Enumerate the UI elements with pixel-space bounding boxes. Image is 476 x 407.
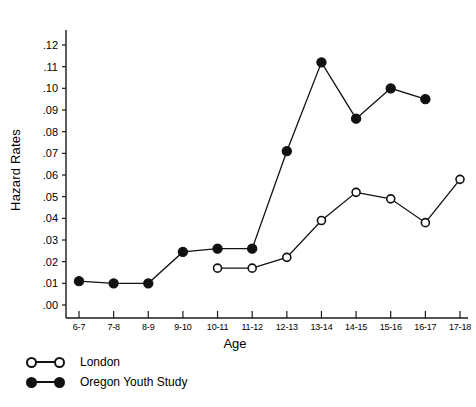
y-tick-label: .00 <box>28 299 58 311</box>
data-point-marker <box>387 195 395 203</box>
data-point-marker <box>421 95 430 104</box>
legend-item-oregon-youth-study: Oregon Youth Study <box>24 372 187 392</box>
data-point-marker <box>421 219 429 227</box>
y-tick-label: .12 <box>28 39 58 51</box>
y-tick-label: .07 <box>28 147 58 159</box>
y-tick-label: .04 <box>28 212 58 224</box>
legend-label-oregon-youth-study: Oregon Youth Study <box>80 375 187 389</box>
y-tick-label: .05 <box>28 191 58 203</box>
legend-item-london: London <box>24 352 187 372</box>
data-point-marker <box>351 114 360 123</box>
filled-circle-marker-icon <box>24 375 68 389</box>
data-point-marker <box>213 244 222 253</box>
data-point-marker <box>248 264 256 272</box>
legend-label-london: London <box>80 355 120 369</box>
data-point-marker <box>214 264 222 272</box>
data-point-marker <box>74 277 83 286</box>
y-tick-label: .10 <box>28 82 58 94</box>
y-tick-label: .06 <box>28 169 58 181</box>
data-point-marker <box>282 147 291 156</box>
data-point-marker <box>456 175 464 183</box>
data-point-marker <box>386 84 395 93</box>
data-point-marker <box>352 188 360 196</box>
y-tick-label: .09 <box>28 104 58 116</box>
x-axis-title: Age <box>0 336 470 351</box>
data-point-marker <box>283 253 291 261</box>
chart-legend: London Oregon Youth Study <box>24 352 187 392</box>
y-tick-label: .03 <box>28 234 58 246</box>
y-tick-label: .01 <box>28 277 58 289</box>
data-point-marker <box>317 217 325 225</box>
data-point-marker <box>317 58 326 67</box>
open-circle-marker-icon <box>24 355 68 369</box>
data-point-marker <box>178 247 187 256</box>
data-point-marker <box>248 244 257 253</box>
data-point-marker <box>144 279 153 288</box>
y-tick-label: .08 <box>28 126 58 138</box>
data-point-marker <box>109 279 118 288</box>
x-tick-label: 17-18 <box>440 322 476 332</box>
y-tick-label: .02 <box>28 256 58 268</box>
y-tick-label: .11 <box>28 61 58 73</box>
